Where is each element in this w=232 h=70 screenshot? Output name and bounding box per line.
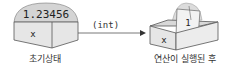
cast-label: (int)	[92, 20, 119, 30]
box-front	[14, 22, 78, 48]
result-value: 1	[185, 18, 190, 28]
initial-state-box: 1.23456 x	[14, 3, 78, 48]
initial-state-caption: 초기상태	[29, 52, 61, 65]
arrow-head-icon	[140, 30, 146, 36]
cast-arrow: (int)	[78, 20, 146, 36]
result-state-caption: 연산이 실행된 후	[154, 52, 216, 65]
variable-name: x	[161, 35, 167, 45]
result-state-box: 1 x	[150, 3, 218, 50]
variable-name: x	[30, 29, 36, 39]
initial-value: 1.23456	[23, 8, 69, 21]
